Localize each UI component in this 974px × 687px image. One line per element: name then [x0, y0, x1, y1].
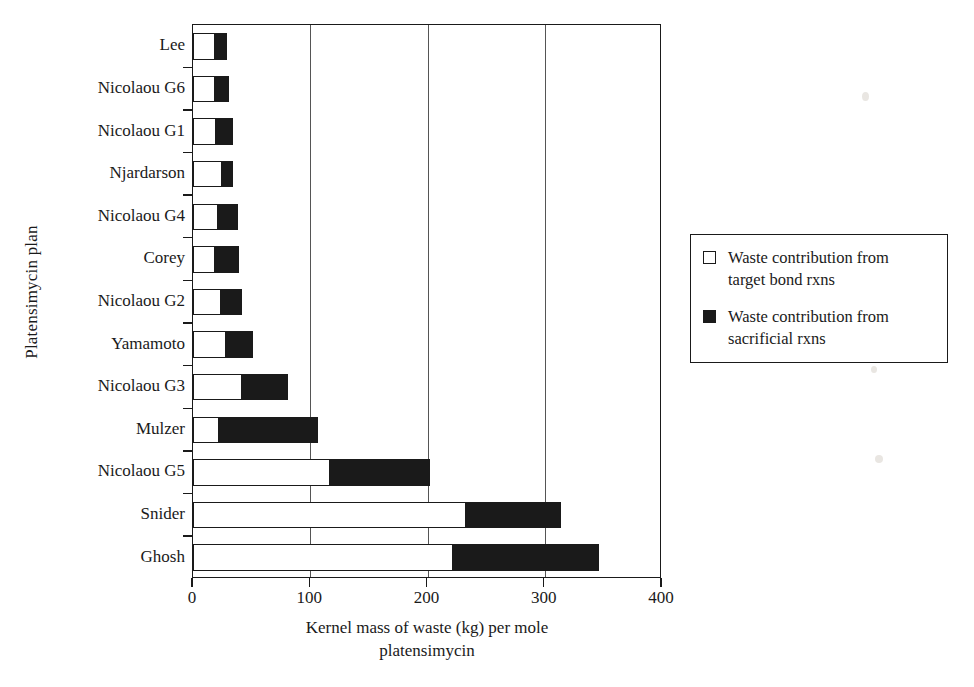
y-axis-tick [183, 67, 192, 68]
x-axis-title: Kernel mass of waste (kg) per mole plate… [192, 617, 662, 663]
plot-area [192, 24, 661, 578]
legend-label-sacrificial: Waste contribution from sacrificial rxns [728, 306, 889, 351]
bar-group [193, 76, 660, 102]
y-axis-tick [183, 535, 192, 536]
x-axis-tick-300 [543, 578, 544, 587]
y-axis-label-nicolaou-g4: Nicolaou G4 [20, 207, 185, 224]
x-axis-tick-label-0: 0 [162, 588, 222, 608]
y-axis-label-mulzer: Mulzer [20, 420, 185, 437]
x-axis-tick-label-100: 100 [279, 588, 339, 608]
bar-group [193, 502, 660, 528]
y-axis-tick [183, 365, 192, 366]
y-axis-label-corey: Corey [20, 249, 185, 266]
bar-group [193, 118, 660, 144]
bar-segment-target-bond [193, 76, 215, 102]
bar-segment-target-bond [193, 374, 242, 400]
y-axis-label-njardarson: Njardarson [20, 164, 185, 181]
y-axis-label-lee: Lee [20, 36, 185, 53]
legend-label-target-bond: Waste contribution from target bond rxns [728, 247, 889, 292]
y-axis-label-ghosh: Ghosh [20, 548, 185, 565]
x-axis-tick-400 [660, 578, 661, 587]
bar-group [193, 417, 660, 443]
legend-label-sacrificial-line2: sacrificial rxns [728, 329, 826, 348]
scan-artifact [875, 455, 883, 463]
bar-group [193, 544, 660, 570]
scan-artifact [862, 92, 869, 101]
y-axis-tick [183, 109, 192, 110]
bar-segment-target-bond [193, 502, 466, 528]
x-axis-tick-label-300: 300 [514, 588, 574, 608]
bar-segment-target-bond [193, 544, 453, 570]
bar-group [193, 459, 660, 485]
legend-swatch-hollow-icon [703, 251, 716, 264]
y-axis-tick [183, 237, 192, 238]
bar-segment-target-bond [193, 331, 226, 357]
chart-legend: Waste contribution from target bond rxns… [690, 234, 948, 363]
y-axis-label-nicolaou-g5: Nicolaou G5 [20, 462, 185, 479]
bar-segment-target-bond [193, 289, 221, 315]
y-axis-tick-labels: LeeNicolaou G6Nicolaou G1NjardarsonNicol… [20, 24, 185, 578]
x-axis-title-line2: platensimycin [192, 640, 662, 663]
y-axis-tick [183, 280, 192, 281]
bar-group [193, 161, 660, 187]
y-axis-tick [183, 194, 192, 195]
legend-label-sacrificial-line1: Waste contribution from [728, 307, 889, 326]
bar-segment-target-bond [193, 459, 330, 485]
bar-segment-target-bond [193, 246, 215, 272]
bar-group [193, 246, 660, 272]
bar-group [193, 204, 660, 230]
bar-segment-target-bond [193, 417, 219, 443]
bar-group [193, 374, 660, 400]
legend-entry-sacrificial: Waste contribution from sacrificial rxns [703, 306, 937, 351]
legend-entry-target-bond: Waste contribution from target bond rxns [703, 247, 937, 292]
y-axis-tick [183, 493, 192, 494]
bar-group [193, 33, 660, 59]
chart-figure: Platensimycin plan LeeNicolaou G6Nicolao… [0, 0, 974, 687]
y-axis-tick [183, 450, 192, 451]
bar-segment-target-bond [193, 204, 218, 230]
bar-group [193, 289, 660, 315]
y-axis-tick [183, 408, 192, 409]
y-axis-label-nicolaou-g2: Nicolaou G2 [20, 292, 185, 309]
legend-label-target-bond-line2: target bond rxns [728, 270, 835, 289]
bar-segment-target-bond [193, 33, 215, 59]
y-axis-label-snider: Snider [20, 505, 185, 522]
x-axis-tick-100 [309, 578, 310, 587]
x-axis-tick-0 [191, 578, 192, 587]
x-axis-tick-label-400: 400 [631, 588, 691, 608]
y-axis-label-nicolaou-g6: Nicolaou G6 [20, 79, 185, 96]
legend-label-target-bond-line1: Waste contribution from [728, 248, 889, 267]
y-axis-tick [183, 322, 192, 323]
y-axis-label-nicolaou-g1: Nicolaou G1 [20, 122, 185, 139]
x-axis-tick-200 [426, 578, 427, 587]
y-axis-tick [183, 152, 192, 153]
bar-segment-target-bond [193, 118, 216, 144]
bar-group [193, 331, 660, 357]
bar-segment-target-bond [193, 161, 222, 187]
x-axis-tick-label-200: 200 [397, 588, 457, 608]
scan-artifact [871, 366, 877, 373]
x-axis-title-line1: Kernel mass of waste (kg) per mole [192, 617, 662, 640]
legend-swatch-filled-icon [703, 310, 716, 323]
y-axis-label-yamamoto: Yamamoto [20, 335, 185, 352]
y-axis-label-nicolaou-g3: Nicolaou G3 [20, 377, 185, 394]
